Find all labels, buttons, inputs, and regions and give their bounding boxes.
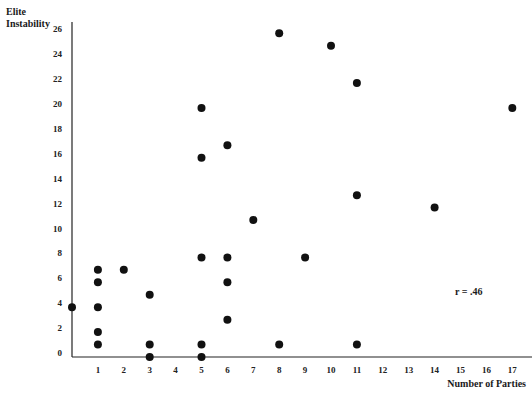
data-point xyxy=(223,278,231,286)
y-tick-label: 2 xyxy=(58,323,63,333)
x-tick-label: 13 xyxy=(404,365,414,375)
data-point xyxy=(146,341,154,349)
x-tick-label: 9 xyxy=(303,365,308,375)
x-tick-label: 1 xyxy=(96,365,101,375)
data-point xyxy=(146,291,154,299)
data-point xyxy=(94,278,102,286)
y-tick-label: 4 xyxy=(58,298,63,308)
data-point xyxy=(275,29,283,37)
data-point xyxy=(198,154,206,162)
data-point xyxy=(508,104,516,112)
data-point xyxy=(223,141,231,149)
y-tick-label: 26 xyxy=(53,24,63,34)
y-tick-label: 6 xyxy=(58,273,63,283)
y-tick-label: 22 xyxy=(53,74,63,84)
y-tick-label: 20 xyxy=(53,99,63,109)
data-point xyxy=(198,104,206,112)
data-point xyxy=(353,341,361,349)
x-tick-label: 14 xyxy=(430,365,440,375)
x-tick-label: 2 xyxy=(122,365,127,375)
data-point xyxy=(301,253,309,261)
x-tick-label: 17 xyxy=(508,365,518,375)
data-point xyxy=(223,253,231,261)
x-tick-label: 7 xyxy=(251,365,256,375)
y-axis-ticks: 02468101214161820222426 xyxy=(53,24,63,358)
x-tick-label: 4 xyxy=(173,365,178,375)
data-point xyxy=(120,266,128,274)
data-point xyxy=(431,204,439,212)
data-point xyxy=(146,353,154,361)
x-tick-label: 11 xyxy=(353,365,362,375)
data-point xyxy=(198,341,206,349)
x-tick-label: 12 xyxy=(378,365,388,375)
data-point xyxy=(275,341,283,349)
y-tick-label: 24 xyxy=(53,49,63,59)
data-point xyxy=(94,266,102,274)
data-point xyxy=(94,328,102,336)
data-point xyxy=(249,216,257,224)
x-tick-label: 10 xyxy=(327,365,337,375)
y-tick-label: 8 xyxy=(58,248,63,258)
x-tick-label: 6 xyxy=(225,365,230,375)
y-tick-label: 10 xyxy=(53,224,63,234)
y-tick-label: 16 xyxy=(53,149,63,159)
x-tick-label: 8 xyxy=(277,365,282,375)
x-tick-label: 5 xyxy=(199,365,204,375)
data-point xyxy=(198,253,206,261)
correlation-annotation: r = .46 xyxy=(455,286,482,297)
x-axis-ticks: 1234567891011121314151617 xyxy=(96,365,518,375)
data-point xyxy=(353,191,361,199)
data-point xyxy=(198,353,206,361)
data-points xyxy=(68,29,516,361)
x-tick-label: 3 xyxy=(147,365,152,375)
y-tick-label: 0 xyxy=(58,348,63,358)
data-point xyxy=(353,79,361,87)
data-point xyxy=(68,303,76,311)
x-tick-label: 16 xyxy=(482,365,492,375)
data-point xyxy=(327,42,335,50)
x-tick-label: 15 xyxy=(456,365,466,375)
scatter-plot: 02468101214161820222426 1234567891011121… xyxy=(0,0,532,393)
x-axis-title: Number of Parties xyxy=(447,378,526,389)
data-point xyxy=(94,341,102,349)
data-point xyxy=(223,316,231,324)
y-tick-label: 18 xyxy=(53,124,63,134)
y-tick-label: 14 xyxy=(53,174,63,184)
data-point xyxy=(94,303,102,311)
y-tick-label: 12 xyxy=(53,199,63,209)
axes xyxy=(72,22,532,357)
